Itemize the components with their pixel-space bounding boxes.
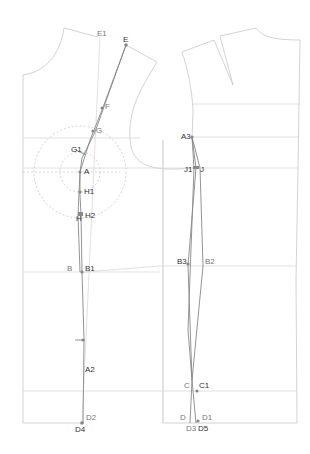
label-a3: A3 [181,133,191,141]
pattern-drawing [0,0,310,454]
back-piece-outline [163,28,300,423]
label-d2: D2 [86,414,96,422]
label-d: D [180,414,186,422]
front-seam-lines [75,45,126,423]
label-c1: C1 [199,382,209,390]
label-e1: E1 [97,30,107,38]
label-b3: B3 [177,258,187,266]
construction-lines [23,37,300,423]
label-b: B [67,265,72,273]
label-a2: A2 [85,366,95,374]
label-d1: D1 [202,414,212,422]
label-d4: D4 [75,426,85,434]
label-j1: J1 [184,166,192,174]
label-g1: G1 [71,146,82,154]
label-g: G [96,127,102,135]
label-e: E [123,36,128,44]
label-h1: H1 [84,188,94,196]
dashed-circles [23,126,126,218]
pattern-diagram: E1 E F G G1 A H1 H H2 B B1 A2 D2 D4 A3 J… [0,0,310,454]
label-j: J [200,166,204,174]
label-d3: D3 [186,425,196,433]
label-b2: B2 [205,258,215,266]
front-piece-outline [23,28,190,423]
label-c: C [184,382,190,390]
label-h: H [76,215,82,223]
points [78,43,200,425]
label-d5: D5 [198,425,208,433]
label-b1: B1 [85,265,95,273]
label-f: F [105,103,110,111]
label-a: A [84,168,89,176]
label-h2: H2 [85,212,95,220]
